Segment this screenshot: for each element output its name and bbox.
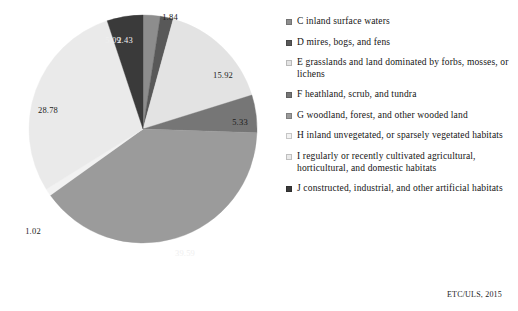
- legend-item-g[interactable]: G woodland, forest, and other wooded lan…: [286, 110, 510, 122]
- legend-swatch-d: [286, 40, 292, 46]
- legend: C inland surface waters D mires, bogs, a…: [272, 0, 518, 311]
- pie-svg: [28, 14, 258, 244]
- legend-item-e[interactable]: E grasslands and land dominated by forbs…: [286, 57, 510, 80]
- pie-chart: [28, 14, 258, 244]
- legend-swatch-h: [286, 133, 292, 139]
- legend-label-g: G woodland, forest, and other wooded lan…: [297, 110, 468, 122]
- legend-item-d[interactable]: D mires, bogs, and fens: [286, 37, 510, 49]
- legend-label-h: H inland unvegetated, or sparsely vegeta…: [297, 130, 503, 142]
- legend-swatch-f: [286, 92, 292, 98]
- legend-item-c[interactable]: C inland surface waters: [286, 16, 510, 28]
- legend-item-j[interactable]: J constructed, industrial, and other art…: [286, 183, 510, 195]
- pie-value-label-g: 39.59: [175, 248, 195, 258]
- legend-label-j: J constructed, industrial, and other art…: [297, 183, 503, 195]
- source-note: ETC/ULS, 2015: [447, 290, 502, 299]
- pie-panel: 2.431.8415.925.3339.591.0228.785.09: [0, 0, 272, 311]
- legend-swatch-j: [286, 186, 292, 192]
- pie-chart-figure: 2.431.8415.925.3339.591.0228.785.09 C in…: [0, 0, 518, 311]
- legend-item-i[interactable]: I regularly or recently cultivated agric…: [286, 151, 510, 174]
- legend-item-h[interactable]: H inland unvegetated, or sparsely vegeta…: [286, 130, 510, 142]
- legend-label-d: D mires, bogs, and fens: [297, 37, 390, 49]
- legend-item-f[interactable]: F heathland, scrub, and tundra: [286, 89, 510, 101]
- legend-swatch-c: [286, 19, 292, 25]
- legend-label-i: I regularly or recently cultivated agric…: [297, 151, 510, 174]
- legend-label-e: E grasslands and land dominated by forbs…: [297, 57, 510, 80]
- legend-swatch-g: [286, 113, 292, 119]
- legend-label-f: F heathland, scrub, and tundra: [297, 89, 417, 101]
- legend-label-c: C inland surface waters: [297, 16, 390, 28]
- legend-swatch-e: [286, 60, 292, 66]
- legend-swatch-i: [286, 154, 292, 160]
